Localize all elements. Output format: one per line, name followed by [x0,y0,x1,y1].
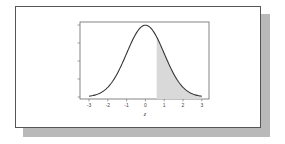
x-axis-ticks: -3-2-10123 [87,99,204,108]
x-tick-label: 0 [144,102,147,108]
x-axis-label: z [143,111,147,117]
x-tick-label: -2 [106,102,111,108]
plot-area [80,22,209,99]
x-tick-label: 1 [163,102,166,108]
x-tick-label: -1 [124,102,129,108]
x-tick-label: 2 [182,102,185,108]
normal-distribution-chart: -3-2-10123 z [0,0,285,144]
x-tick-label: -3 [87,102,92,108]
x-tick-label: 3 [200,102,203,108]
